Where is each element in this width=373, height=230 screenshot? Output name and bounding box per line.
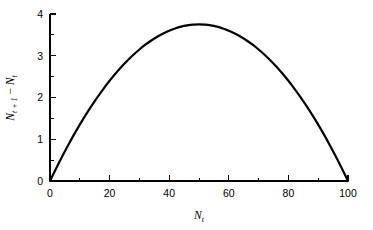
data-curve-logistic-increment xyxy=(50,24,348,181)
y-axis-ticks xyxy=(50,14,56,181)
logistic-increment-chart: 020406080100 01234 Nt Nt + 1 − Nt xyxy=(0,0,373,230)
y-tick-label: 2 xyxy=(37,91,43,103)
x-axis-ticks xyxy=(50,175,348,181)
y-tick-label: 3 xyxy=(37,50,43,62)
y-tick-label: 4 xyxy=(37,8,43,20)
x-tick-label: 40 xyxy=(163,187,175,199)
x-tick-label: 80 xyxy=(283,187,295,199)
x-tick-label: 20 xyxy=(104,187,116,199)
x-tick-label: 0 xyxy=(47,187,53,199)
x-axis-tick-labels: 020406080100 xyxy=(47,187,357,199)
x-axis-title: Nt xyxy=(193,209,205,224)
figure-container: 020406080100 01234 Nt Nt + 1 − Nt xyxy=(0,0,373,230)
x-tick-label: 100 xyxy=(339,187,357,199)
axes-group xyxy=(50,14,348,181)
x-tick-label: 60 xyxy=(223,187,235,199)
y-tick-label: 0 xyxy=(37,175,43,187)
y-axis-title: Nt + 1 − Nt xyxy=(4,75,19,122)
y-tick-label: 1 xyxy=(37,133,43,145)
y-axis-tick-labels: 01234 xyxy=(37,8,43,187)
